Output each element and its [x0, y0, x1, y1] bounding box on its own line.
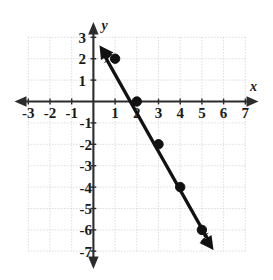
x-tick-label: 1 [111, 105, 119, 121]
coordinate-plane-graph: -3 -2 -1 1 2 3 4 5 6 7 3 2 1 -1 -2 -3 -4… [0, 0, 273, 280]
x-tick-label: -1 [65, 105, 78, 121]
data-point [176, 182, 185, 191]
x-tick-label: 6 [220, 105, 228, 121]
x-tick-label: 3 [155, 105, 163, 121]
y-tick-label: 1 [79, 73, 87, 89]
graph-canvas: -3 -2 -1 1 2 3 4 5 6 7 3 2 1 -1 -2 -3 -4… [0, 0, 273, 280]
x-tick-label: -2 [44, 105, 57, 121]
y-tick-label: -3 [80, 158, 93, 174]
y-tick-label: -2 [80, 137, 93, 153]
y-tick-label: 3 [79, 30, 87, 46]
data-point [110, 54, 119, 63]
x-tick-label: 7 [242, 105, 250, 121]
y-tick-label: -6 [80, 222, 93, 238]
x-tick-label: 4 [176, 105, 184, 121]
x-axis-label: x [249, 79, 257, 94]
y-tick-label: 2 [79, 51, 87, 67]
data-point [132, 97, 141, 106]
y-axis-label: y [99, 18, 108, 33]
y-tick-label: -5 [80, 201, 93, 217]
y-tick-label: -4 [80, 180, 93, 196]
data-point [154, 140, 163, 149]
x-tick-label: -3 [22, 105, 35, 121]
y-tick-label: -1 [80, 115, 93, 131]
data-point [197, 225, 206, 234]
y-tick-label: -7 [80, 244, 93, 260]
x-tick-label: 5 [198, 105, 206, 121]
